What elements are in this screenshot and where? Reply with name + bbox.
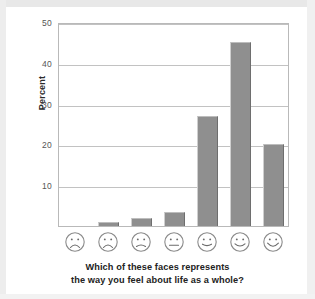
caption-line-1: Which of these faces represents: [40, 261, 275, 274]
face-icon-7-big-smile: [262, 231, 284, 253]
y-tick-label-40: 40: [12, 59, 52, 69]
chart-caption: Which of these faces represents the way …: [40, 261, 275, 286]
y-tick-label-50: 50: [12, 18, 52, 28]
face-icon-4-neutral: [163, 231, 185, 253]
gridline-30: [59, 106, 288, 107]
gridline-20: [59, 146, 288, 147]
bar-6: [230, 42, 251, 226]
face-icon-3-slight-frown: [130, 231, 152, 253]
bar-chart-figure: Percent 1020304050 Which of these faces …: [0, 0, 315, 299]
bar-4: [164, 212, 185, 226]
bar-3: [131, 218, 152, 226]
gridline-50: [59, 24, 288, 25]
gridline-10: [59, 187, 288, 188]
y-tick-label-30: 30: [12, 100, 52, 110]
y-tick-label-20: 20: [12, 140, 52, 150]
face-icon-6-smile: [229, 231, 251, 253]
bar-2: [98, 222, 119, 226]
face-icon-2-frown: [97, 231, 119, 253]
face-icon-1-frown: [64, 231, 86, 253]
bar-7: [263, 144, 284, 226]
x-axis-face-icons: [58, 231, 289, 255]
caption-line-2: the way you feel about life as a whole?: [40, 274, 275, 287]
plot-area: [58, 23, 289, 227]
y-tick-label-10: 10: [12, 181, 52, 191]
face-icon-5-slight-smile: [196, 231, 218, 253]
gridline-40: [59, 65, 288, 66]
y-axis-title: Percent: [37, 63, 47, 123]
bar-5: [197, 116, 218, 226]
